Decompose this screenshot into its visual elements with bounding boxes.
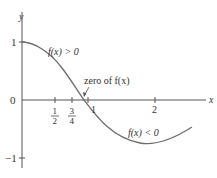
x-axis-label: x xyxy=(208,94,214,105)
function-graph: y x 1 0 −1 1 2 3 4 1 2 f(x) > 0 zero of … xyxy=(0,0,217,178)
x-tick-label-half-den: 2 xyxy=(53,116,58,126)
function-curve xyxy=(22,42,192,144)
y-tick-label-1: 1 xyxy=(11,36,17,48)
annotation-positive: f(x) > 0 xyxy=(48,46,79,58)
x-tick-label-threequarter-num: 3 xyxy=(70,106,75,116)
x-tick-label-threequarter-den: 4 xyxy=(70,116,75,126)
y-tick-label-neg1: −1 xyxy=(5,152,17,164)
y-tick-label-0: 0 xyxy=(10,94,16,106)
x-tick-label-2: 2 xyxy=(152,104,157,115)
x-tick-label-1: 1 xyxy=(91,104,96,115)
annotation-negative: f(x) < 0 xyxy=(128,127,159,139)
annotation-zero: zero of f(x) xyxy=(84,75,130,87)
x-tick-label-half-num: 1 xyxy=(53,106,58,116)
y-axis-label: y xyxy=(18,11,24,22)
